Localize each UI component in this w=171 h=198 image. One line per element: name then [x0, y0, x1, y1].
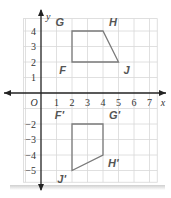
- vertex-label: F': [55, 109, 65, 121]
- vertex-label: G': [109, 109, 121, 121]
- x-axis-arrow-right: [159, 90, 166, 96]
- x-tick-label: 4: [101, 97, 106, 108]
- x-tick-label: 2: [70, 97, 75, 108]
- y-axis-label: y: [45, 11, 51, 22]
- y-tick-label: −3: [25, 134, 36, 145]
- y-axis-arrow-up: [38, 9, 44, 16]
- x-axis-label: x: [160, 97, 166, 108]
- y-tick-label: −4: [25, 150, 36, 161]
- grid-shadow: [10, 185, 165, 190]
- y-tick-label: −2: [25, 119, 36, 130]
- vertex-label: J': [57, 173, 66, 185]
- vertex-label: F: [59, 64, 66, 76]
- x-tick-label: 3: [85, 97, 90, 108]
- vertex-label: H': [108, 157, 119, 169]
- x-tick-label: 1: [54, 97, 59, 108]
- grid: [24, 19, 158, 183]
- y-tick-label: 4: [31, 26, 36, 37]
- x-axis-arrow-left: [4, 90, 11, 96]
- x-tick-label: 5: [116, 97, 121, 108]
- vertex-label: H: [109, 16, 118, 28]
- origin-label: O: [30, 97, 37, 108]
- y-tick-label: 1: [31, 72, 36, 83]
- y-tick-label: 2: [31, 57, 36, 68]
- vertex-label: G: [55, 16, 64, 28]
- vertex-label: J: [124, 64, 131, 76]
- grid-border: [24, 19, 158, 183]
- x-tick-label: 6: [132, 97, 137, 108]
- x-tick-label: 7: [147, 97, 152, 108]
- y-tick-label: −5: [25, 165, 36, 176]
- coordinate-plane: xyO12345674321−2−3−4−5 GHJFF'G'H'J': [0, 0, 171, 198]
- y-tick-label: 3: [31, 41, 36, 52]
